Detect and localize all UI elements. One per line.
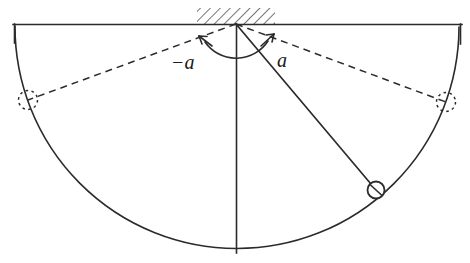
- pendulum-rod: [236, 24, 376, 190]
- arrow-right-barb-a: [266, 34, 274, 35]
- angle-arrow-right-icon: [261, 34, 274, 46]
- diagram-canvas: −a a: [0, 0, 470, 263]
- angle-label-positive: a: [277, 49, 287, 71]
- ceiling-hatching: [197, 8, 275, 24]
- rod-dashed-left: [28, 24, 236, 100]
- arrow-left-barb-a: [199, 36, 207, 37]
- angle-arrow-left-icon: [199, 36, 212, 46]
- rod-dashed-right: [236, 24, 446, 102]
- angle-label-negative: −a: [171, 51, 195, 73]
- hatch-fill: [197, 8, 275, 24]
- pendulum-bob-icon: [368, 182, 385, 199]
- pendulum-diagram-figure: −a a: [0, 0, 470, 263]
